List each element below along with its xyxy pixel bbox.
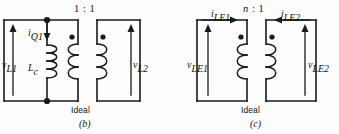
junction-dot-bottom-b [44, 98, 50, 104]
label-inductor-lc: Lc [28, 58, 38, 77]
current-arrow-iq1-b [44, 22, 51, 41]
label-ile1-subscript: LE1 [214, 12, 230, 23]
label-current-ile1: iLE1 [211, 4, 230, 23]
transformer-secondary-winding-b [97, 44, 107, 79]
turns-ratio-c: n : 1 [243, 4, 264, 15]
turns-ratio-separator-c: : [252, 3, 255, 14]
label-ideal-c: Ideal [241, 106, 260, 115]
label-vle1-subscript: LE1 [191, 63, 207, 74]
caption-c: (c) [250, 119, 261, 129]
junction-dot-top-b [44, 17, 50, 23]
polarity-dot-primary-c [238, 34, 243, 39]
caption-b: (b) [79, 119, 91, 129]
inductor-lc-b [47, 45, 57, 78]
turns-ratio-left-c: n [243, 3, 249, 14]
label-vl2-subscript: L2 [137, 63, 147, 74]
label-lc-subscript: c [34, 66, 38, 77]
label-voltage-vle2: vLE2 [308, 55, 329, 74]
polarity-dot-secondary-b [100, 34, 105, 39]
polarity-dot-primary-b [69, 34, 74, 39]
label-voltage-vl2: vL2 [133, 55, 148, 74]
label-ideal-b: Ideal [71, 106, 90, 115]
polarity-dot-secondary-c [269, 34, 274, 39]
label-current-iq1: iQ1 [28, 23, 43, 42]
transformer-primary-winding-c [237, 44, 247, 79]
label-current-ile2: iLE2 [281, 4, 300, 23]
turns-ratio-b: 1 : 1 [74, 4, 95, 15]
transformer-primary-winding-b [68, 44, 78, 79]
label-vle2-subscript: LE2 [312, 63, 328, 74]
turns-ratio-left-b: 1 [74, 3, 80, 14]
figure-root: 1 : 1 vL1 vL2 iQ1 Lc Ideal (b) [0, 0, 339, 134]
circuit-panel-b: 1 : 1 vL1 vL2 iQ1 Lc Ideal (b) [0, 0, 170, 134]
circuit-panel-c: n : 1 iLE1 iLE2 vLE1 vLE2 Ideal (c) [169, 0, 339, 134]
label-voltage-vl1: vL1 [2, 55, 17, 74]
label-ile2-subscript: LE2 [284, 12, 300, 23]
transformer-secondary-winding-c [266, 44, 276, 79]
turns-ratio-separator-b: : [83, 3, 86, 14]
label-voltage-vle1: vLE1 [187, 55, 208, 74]
label-vl1-subscript: L1 [6, 63, 16, 74]
turns-ratio-right-b: 1 [89, 3, 95, 14]
label-iq1-subscript: Q1 [31, 31, 43, 42]
turns-ratio-right-c: 1 [258, 3, 264, 14]
